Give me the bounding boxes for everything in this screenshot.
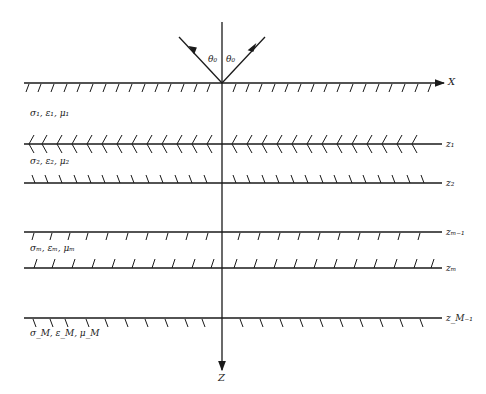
theta-incident-label: θ₀ (208, 54, 217, 64)
interface-zm-minus-1-label: zₘ₋₁ (446, 227, 465, 237)
zM-minus-1-hatch (33, 319, 423, 327)
x-axis-label: X (448, 76, 455, 87)
zm-minus-1-hatch (32, 233, 420, 240)
z2-hatch (32, 175, 424, 183)
interface-z1-label: z₁ (446, 139, 454, 149)
interface-zM-minus-1-label: z_M₋₁ (446, 313, 473, 323)
surface-hatch (26, 84, 431, 92)
interface-z2-label: z₂ (446, 178, 454, 188)
theta-reflected-label: θ₀ (226, 54, 235, 64)
layer-M-params: σ_M, ε_M, μ_M (30, 328, 99, 338)
interface-zm-label: zₘ (446, 263, 456, 273)
z-axis-label: Z (218, 372, 225, 383)
layer-m-params: σₘ, εₘ, μₘ (30, 243, 75, 253)
layer-1-params: σ₁, ε₁, μ₁ (30, 108, 69, 118)
layer-2-params: σ₂, ε₂, μ₂ (30, 156, 69, 166)
zm-hatch (34, 259, 434, 268)
reflected-ray-arrow-icon (249, 45, 255, 51)
